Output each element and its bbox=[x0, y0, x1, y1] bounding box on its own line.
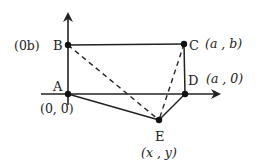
point-d bbox=[182, 91, 188, 97]
point-a bbox=[65, 91, 71, 97]
geometry-diagram: A B C D E (0, 0) (0b) (a , b) (a , 0) (x… bbox=[0, 0, 261, 165]
label-c: C bbox=[189, 38, 199, 53]
label-a: A bbox=[52, 79, 63, 94]
label-e: E bbox=[155, 129, 165, 144]
segment-ae bbox=[68, 94, 159, 120]
point-c bbox=[181, 41, 187, 47]
label-d: D bbox=[188, 73, 198, 88]
coord-label-c: (a , b) bbox=[205, 36, 242, 51]
coord-label-d: (a , 0) bbox=[206, 71, 243, 86]
point-e bbox=[156, 117, 162, 123]
segment-be-dashed bbox=[68, 45, 159, 120]
coord-label-b: (0b) bbox=[14, 38, 40, 53]
coord-label-a: (0, 0) bbox=[40, 101, 74, 116]
segment-bc bbox=[68, 44, 184, 45]
segment-ce-dashed bbox=[159, 44, 184, 120]
point-b bbox=[65, 42, 71, 48]
label-b: B bbox=[53, 38, 63, 53]
coord-label-e: (x , y) bbox=[141, 145, 177, 160]
segment-cd bbox=[184, 44, 185, 94]
